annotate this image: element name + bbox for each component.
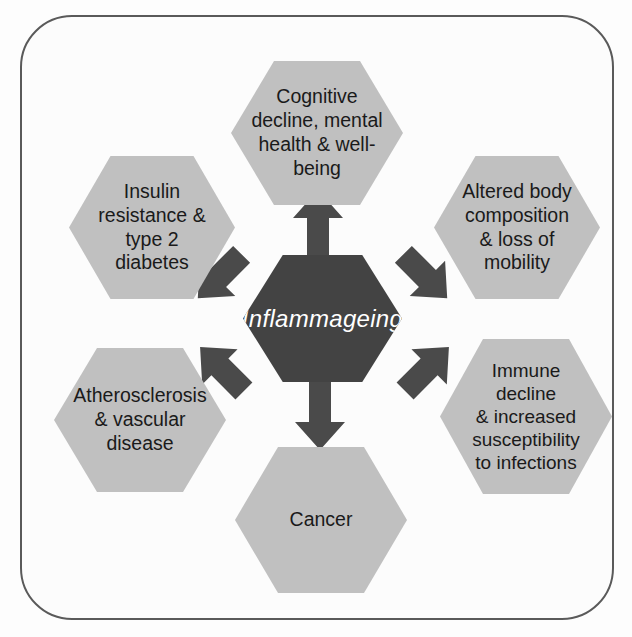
arrow-down-icon (291, 382, 349, 452)
hex-label-body-composition: Altered body composition & loss of mobil… (460, 180, 574, 275)
hex-label-atherosclerosis: Atherosclerosis & vascular disease (71, 384, 208, 455)
hex-label-cancer: Cancer (288, 508, 355, 532)
hex-label-inflammageing: Inflammageing (240, 304, 405, 333)
hex-label-immune: Immune decline & increased susceptibilit… (470, 359, 582, 475)
diagram-canvas: Cognitive decline, mental health & well-… (0, 0, 632, 637)
hex-label-cognitive: Cognitive decline, mental health & well-… (249, 85, 384, 180)
hex-label-insulin: Insulin resistance & type 2 diabetes (96, 180, 207, 275)
